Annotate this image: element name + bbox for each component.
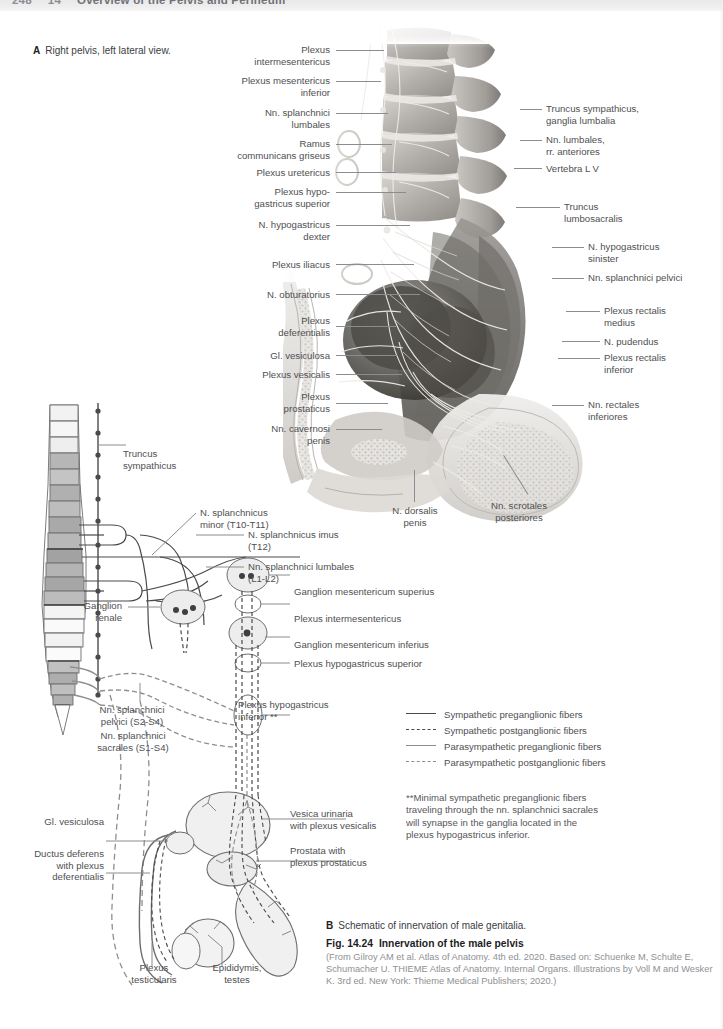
sympathetic-preganglionic-line-icon (406, 709, 436, 719)
label-nn-lumbales-rr-anteriores: Nn. lumbales, rr. anteriores (546, 134, 605, 157)
leader-line (336, 225, 410, 226)
label-plexus-uretericus: Plexus uretericus (196, 167, 330, 179)
legend-item: Parasympathetic postganglionic fibers (406, 754, 626, 770)
label-plexus-hypogastricus-superior-schematic: Plexus hypogastricus superior (294, 658, 422, 670)
leader-line (336, 355, 398, 356)
figure-title-line: Fig. 14.24Innervation of the male pelvis (326, 938, 718, 949)
label-plexus-deferentialis: Plexus deferentialis (190, 315, 330, 338)
legend-label: Sympathetic postganglionic fibers (444, 725, 587, 736)
legend-item: Sympathetic preganglionic fibers (406, 706, 626, 722)
parasympathetic-preganglionic-line-icon (406, 741, 436, 751)
label-plexus-hypogastricus-inferior: Plexus hypogastricus inferior ** (238, 699, 329, 722)
chapter-number: 14 (48, 0, 61, 6)
figure-source-credit: (From Gilroy AM et al. Atlas of Anatomy.… (326, 952, 718, 988)
figure-number: Fig. 14.24 (326, 938, 373, 949)
label-truncus-sympathicus: Truncus sympathicus (123, 448, 176, 471)
label-plexus-hypogastricus-superior: Plexus hypo- gastricus superior (186, 186, 330, 209)
label-plexus-testicularis: Plexus testicularis (118, 962, 190, 985)
leader-line (552, 247, 584, 248)
leader-line (514, 168, 542, 169)
label-plexus-rectalis-medius: Plexus rectalis medius (604, 305, 666, 328)
textbook-page: 24814Overview of the Pelvis and Perineum… (0, 0, 723, 1029)
page-number: 248 (12, 0, 32, 6)
running-title: Overview of the Pelvis and Perineum (77, 0, 285, 6)
leader-line (336, 81, 381, 82)
leader-line (336, 192, 406, 193)
leader-line (516, 207, 560, 208)
label-plexus-intermesentericus-schematic: Plexus intermesentericus (294, 613, 401, 625)
legend-item: Parasympathetic preganglionic fibers (406, 738, 626, 754)
label-nn-splanchnici-lumbales-schematic: Nn. splanchnici lumbales (L1-L2) (248, 561, 354, 584)
label-nn-splanchnici-pelvici: Nn. splanchnici pelvici (588, 272, 682, 284)
label-truncus-lumbosacralis: Truncus lumbosacralis (564, 201, 623, 224)
label-epididymis-testes: Epididymis, testes (198, 962, 276, 985)
panel-b-caption: BSchematic of innervation of male genita… (326, 920, 526, 931)
label-nn-splanchnici-pelvici: Nn. splanchnici pelvici (S2-S4) (78, 704, 186, 727)
footnote-text: **Minimal sympathetic preganglionic fibe… (406, 792, 606, 842)
label-n-splanchnicus-imus: N. splanchnicus imus (T12) (248, 529, 339, 552)
page-header-text: 24814Overview of the Pelvis and Perineum (12, 0, 285, 6)
legend-item: Sympathetic postganglionic fibers (406, 722, 626, 738)
label-n-pudendus: N. pudendus (604, 336, 658, 348)
sympathetic-postganglionic-line-icon (406, 725, 436, 735)
figure-title: Innervation of the male pelvis (379, 938, 524, 949)
label-plexus-mesentericus-inferior: Plexus mesentericus inferior (178, 75, 330, 98)
legend-label: Parasympathetic preganglionic fibers (444, 741, 601, 752)
label-truncus-sympathicus-ganglia-lumbalia: Truncus sympathicus, ganglia lumbalia (546, 103, 639, 126)
panel-a-caption-text: Right pelvis, left lateral view. (45, 45, 171, 56)
label-nn-splanchnici-sacrales: Nn. splanchnici sacrales (S1-S4) (80, 730, 186, 753)
label-ganglion-mesentericum-superius: Ganglion mesentericum superius (294, 586, 434, 598)
leader-line (520, 140, 542, 141)
leader-line (562, 341, 600, 342)
label-ductus-deferens-with-plexus-deferentialis: Ductus deferens with plexus deferentiali… (14, 848, 104, 883)
leader-line (336, 172, 396, 173)
legend-label: Parasympathetic postganglionic fibers (444, 757, 606, 768)
leader-line (336, 294, 420, 295)
leader-line (336, 326, 396, 327)
figure-caption-block: Fig. 14.24Innervation of the male pelvis… (326, 938, 718, 988)
panel-a-marker: A (33, 45, 40, 56)
label-ganglion-renale: Ganglion renale (38, 600, 122, 623)
label-prostata-with-plexus-prostaticus: Prostata with plexus prostaticus (290, 845, 367, 868)
label-gl-vesiculosa: Gl. vesiculosa (190, 350, 330, 362)
label-gl-vesiculosa-schematic: Gl. vesiculosa (14, 816, 104, 828)
label-ganglion-mesentericum-inferius: Ganglion mesentericum inferius (294, 639, 429, 651)
label-n-splanchnicus-minor: N. splanchnicus minor (T10-T11) (200, 507, 269, 530)
label-vesica-urinaria-with-plexus-vesicalis: Vesica urinaria with plexus vesicalis (290, 808, 376, 831)
leader-line (336, 113, 388, 114)
leader-line (558, 358, 600, 359)
leader-line (552, 278, 584, 279)
leader-line (336, 144, 392, 145)
label-plexus-intermesentericus: Plexus intermesentericus (188, 44, 330, 67)
panel-b-caption-text: Schematic of innervation of male genital… (338, 920, 526, 931)
label-n-hypogastricus-dexter: N. hypogastricus dexter (180, 219, 330, 242)
label-ramus-communicans-griseus: Ramus communicans griseus (178, 138, 330, 161)
parasympathetic-postganglionic-line-icon (406, 757, 436, 767)
label-n-hypogastricus-sinister: N. hypogastricus sinister (588, 241, 659, 264)
label-plexus-rectalis-inferior: Plexus rectalis inferior (604, 352, 666, 375)
leader-line (566, 311, 600, 312)
leader-line (520, 109, 542, 110)
legend-label: Sympathetic preganglionic fibers (444, 709, 583, 720)
fiber-type-legend: Sympathetic preganglionic fibers Sympath… (406, 706, 626, 770)
panel-b-marker: B (326, 920, 333, 931)
label-plexus-vesicalis: Plexus vesicalis (186, 369, 330, 381)
leader-line (336, 50, 384, 51)
panel-a-caption: ARight pelvis, left lateral view. (33, 45, 171, 56)
leader-line (336, 264, 414, 265)
label-n-obturatorius: N. obturatorius (180, 289, 330, 301)
label-nn-splanchnici-lumbales: Nn. splanchnici lumbales (198, 107, 330, 130)
label-vertebra-l-v: Vertebra L V (546, 163, 599, 175)
page-header-band: 24814Overview of the Pelvis and Perineum (0, 0, 723, 11)
label-plexus-iliacus: Plexus iliacus (188, 259, 330, 271)
leader-line (336, 374, 402, 375)
